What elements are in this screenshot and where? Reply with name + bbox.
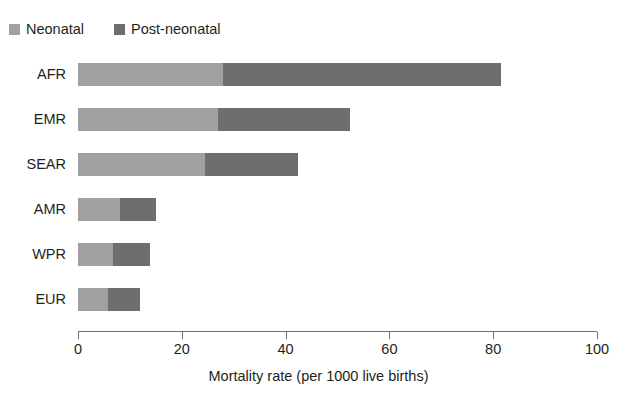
bar-row: SEAR <box>0 153 637 177</box>
x-tick-80 <box>493 332 494 339</box>
chart-legend: Neonatal Post-neonatal <box>9 20 221 38</box>
stacked-bar-amr[interactable] <box>78 198 156 221</box>
bar-segment-post-neonatal[interactable] <box>205 153 298 176</box>
legend-label-post-neonatal: Post-neonatal <box>131 22 220 36</box>
x-tick-label-0: 0 <box>74 340 82 358</box>
x-tick-label-100: 100 <box>585 340 609 358</box>
bar-segment-neonatal[interactable] <box>78 198 120 221</box>
bar-segment-neonatal[interactable] <box>78 288 108 311</box>
category-label-afr: AFR <box>0 65 66 84</box>
bar-segment-neonatal[interactable] <box>78 153 205 176</box>
category-label-sear: SEAR <box>0 155 66 174</box>
stacked-bar-sear[interactable] <box>78 153 298 176</box>
x-axis-title: Mortality rate (per 1000 live births) <box>0 368 637 384</box>
mortality-rate-bar-chart: Neonatal Post-neonatal AFREMRSEARAMRWPRE… <box>0 0 637 417</box>
bar-segment-post-neonatal[interactable] <box>218 108 350 131</box>
x-tick-60 <box>389 332 390 339</box>
bar-row: EUR <box>0 288 637 312</box>
stacked-bar-afr[interactable] <box>78 63 501 86</box>
bar-segment-post-neonatal[interactable] <box>223 63 501 86</box>
legend-label-neonatal: Neonatal <box>26 22 84 36</box>
bar-row: AFR <box>0 63 637 87</box>
stacked-bar-eur[interactable] <box>78 288 140 311</box>
legend-swatch-neonatal <box>9 24 20 35</box>
bar-row: WPR <box>0 243 637 267</box>
x-tick-100 <box>597 332 598 339</box>
legend-item-post-neonatal[interactable]: Post-neonatal <box>114 22 220 36</box>
stacked-bar-wpr[interactable] <box>78 243 150 266</box>
plot-area: AFREMRSEARAMRWPREUR <box>0 52 637 332</box>
chart-title <box>8 0 628 5</box>
x-tick-label-80: 80 <box>485 340 501 358</box>
bar-row: EMR <box>0 108 637 132</box>
x-tick-label-20: 20 <box>174 340 190 358</box>
stacked-bar-emr[interactable] <box>78 108 350 131</box>
bar-segment-neonatal[interactable] <box>78 63 223 86</box>
x-tick-label-40: 40 <box>278 340 294 358</box>
category-label-emr: EMR <box>0 110 66 129</box>
category-label-amr: AMR <box>0 200 66 219</box>
category-label-wpr: WPR <box>0 245 66 264</box>
bar-segment-post-neonatal[interactable] <box>113 243 150 266</box>
category-label-eur: EUR <box>0 290 66 309</box>
bar-segment-post-neonatal[interactable] <box>108 288 140 311</box>
x-tick-40 <box>286 332 287 339</box>
x-axis-line <box>78 331 597 332</box>
x-tick-20 <box>182 332 183 339</box>
bar-segment-neonatal[interactable] <box>78 108 218 131</box>
legend-swatch-post-neonatal <box>114 24 125 35</box>
bar-segment-neonatal[interactable] <box>78 243 113 266</box>
legend-item-neonatal[interactable]: Neonatal <box>9 22 84 36</box>
bar-segment-post-neonatal[interactable] <box>120 198 156 221</box>
bar-row: AMR <box>0 198 637 222</box>
x-tick-0 <box>78 332 79 339</box>
x-tick-label-60: 60 <box>381 340 397 358</box>
